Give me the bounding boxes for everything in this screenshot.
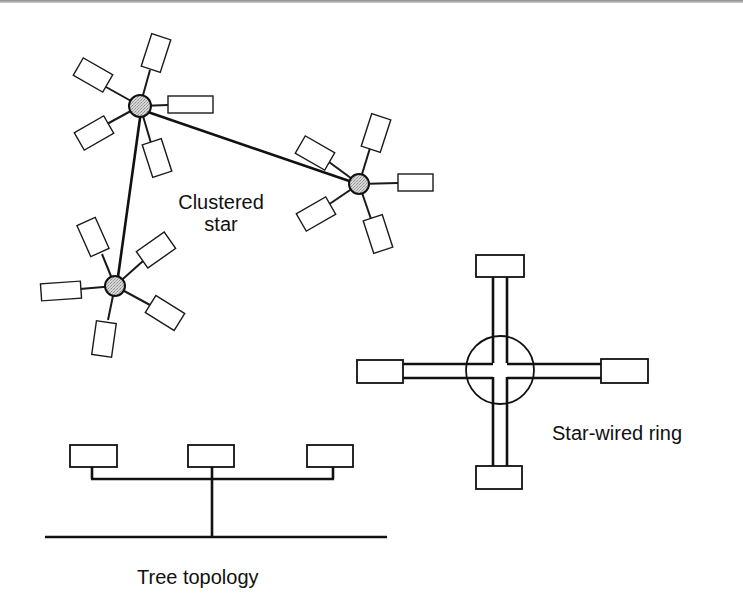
hub-node xyxy=(349,174,369,194)
workstation-box xyxy=(77,217,109,256)
cluster-3 xyxy=(40,217,184,357)
workstation-box xyxy=(141,34,171,73)
star-wired-ring-label: Star-wired ring xyxy=(552,422,682,444)
tree-device xyxy=(307,445,353,467)
workstation-box xyxy=(168,96,213,113)
workstation-box xyxy=(296,197,335,231)
workstation-box xyxy=(92,321,117,357)
tree-topology xyxy=(45,445,387,537)
ring-station-left xyxy=(357,360,403,383)
hub-link-1-3 xyxy=(117,111,141,284)
ring-station-right xyxy=(601,359,648,383)
workstation-box xyxy=(74,116,113,150)
tree-device xyxy=(188,445,234,467)
ring-station-bottom xyxy=(476,466,522,489)
hub-node xyxy=(105,276,125,296)
cluster-2 xyxy=(295,114,433,254)
clustered-star-label-line1: Clustered xyxy=(166,191,276,213)
workstation-box xyxy=(40,281,81,301)
workstation-box xyxy=(398,174,433,191)
workstation-box xyxy=(142,139,172,178)
star-wired-ring-topology xyxy=(357,255,648,489)
ring-station-top xyxy=(476,255,524,277)
workstation-box xyxy=(363,215,393,254)
hub-node xyxy=(129,95,151,117)
tree-device xyxy=(70,445,117,467)
workstation-box xyxy=(361,114,391,153)
workstation-box xyxy=(145,296,184,331)
clustered-star-label: Clustered star xyxy=(166,191,276,235)
network-topologies-diagram xyxy=(0,0,743,614)
clustered-star-label-line2: star xyxy=(166,213,276,235)
cluster-1 xyxy=(73,34,213,178)
ring-hub-circle xyxy=(466,336,534,404)
tree-topology-label: Tree topology xyxy=(137,566,259,588)
